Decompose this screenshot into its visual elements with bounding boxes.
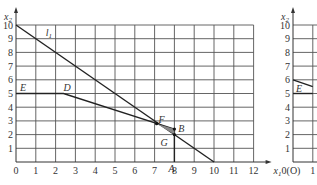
x-tick-label: 1 [310, 165, 315, 176]
y-tick-label: 6 [285, 74, 290, 85]
label-b: B [178, 123, 184, 134]
y-tick-label: 7 [285, 61, 290, 72]
label-g: G [161, 137, 168, 148]
x-tick-label: 7 [152, 165, 157, 176]
y-tick-label: 5 [8, 88, 13, 99]
y-tick-label: 2 [8, 129, 13, 140]
label-d: D [63, 82, 72, 93]
y-tick-label: 8 [285, 47, 290, 58]
y-tick-label: 4 [285, 102, 290, 113]
y-tick-label: 1 [285, 143, 290, 154]
label-f: F [158, 114, 166, 125]
point-b [173, 128, 176, 131]
x-tick-label: 2 [53, 165, 58, 176]
x-tick-label: 12 [249, 165, 259, 176]
x-tick-label: 0(O) [282, 165, 301, 177]
x-tick-label: 1 [33, 165, 38, 176]
y-axis-arrow-icon [14, 7, 18, 13]
x-axis-arrow-icon [266, 160, 272, 164]
x-tick-label: 5 [113, 165, 118, 176]
x-tick-label: 11 [229, 165, 239, 176]
label-l1: l1 [46, 27, 52, 40]
x-tick-label: 6 [132, 165, 137, 176]
y-tick-label: 3 [285, 115, 290, 126]
x-tick-label: 9 [192, 165, 197, 176]
y-tick-label: 9 [8, 33, 13, 44]
label-e: E [295, 83, 302, 94]
y-tick-label: 7 [8, 61, 13, 72]
y-tick-label: 9 [285, 33, 290, 44]
y-axis-arrow-icon [291, 7, 295, 13]
y-tick-label: 1 [8, 143, 13, 154]
label-e: E [19, 82, 26, 93]
x-tick-label: 10 [209, 165, 219, 176]
chart-canvas: 012345678910111212345678910x2x1l1EDFBGA … [0, 0, 317, 185]
point-g [173, 133, 176, 136]
x-tick-label: 3 [73, 165, 78, 176]
y-tick-label: 8 [8, 47, 13, 58]
x-tick-label: 4 [93, 165, 98, 176]
y-tick-label: 2 [285, 129, 290, 140]
right-chart: 123456789100(O)1x2E [280, 7, 317, 177]
y-tick-label: 5 [285, 88, 290, 99]
left-chart: 012345678910111212345678910x2x1l1EDFBGA [3, 7, 282, 178]
x-tick-label: 0 [14, 165, 19, 176]
y-tick-label: 3 [8, 115, 13, 126]
y-tick-label: 6 [8, 74, 13, 85]
x-axis-label: x1 [273, 165, 282, 178]
y-tick-label: 4 [8, 102, 13, 113]
label-a: A [167, 163, 175, 174]
